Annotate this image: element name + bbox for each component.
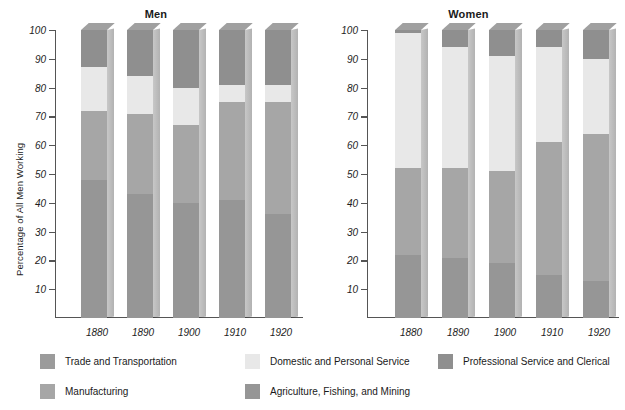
- bar-face: [489, 30, 515, 318]
- plot-area-men: 1020304050607080901001880189019001910192…: [55, 30, 295, 318]
- y-tick-men-70: [49, 116, 55, 117]
- x-tick-label-men-1910: 1910: [224, 327, 246, 338]
- bar-segment-men-1880-0: [81, 180, 107, 318]
- bar-side-shading: [562, 28, 569, 318]
- bar-side-shading: [468, 28, 475, 318]
- legend: Trade and TransportationDomestic and Per…: [0, 352, 625, 410]
- y-tick-label-women-20: 20: [347, 255, 358, 266]
- bar-segment-men-1920-4: [265, 30, 291, 85]
- y-tick-women-10: [361, 289, 367, 290]
- y-tick-label-men-20: 20: [35, 255, 46, 266]
- y-tick-men-50: [49, 174, 55, 175]
- y-tick-label-women-90: 90: [347, 53, 358, 64]
- legend-label-2: Professional Service and Clerical: [463, 356, 610, 367]
- y-tick-men-80: [49, 88, 55, 89]
- legend-item-2[interactable]: Professional Service and Clerical: [438, 354, 610, 369]
- bar-side-shading: [245, 28, 252, 318]
- bar-side-shading: [107, 28, 114, 318]
- bar-segment-men-1900-0: [173, 203, 199, 318]
- y-tick-label-women-30: 30: [347, 226, 358, 237]
- bar-side-shading: [199, 28, 206, 318]
- bar-women-1890[interactable]: [442, 30, 468, 318]
- legend-swatch-icon-0: [40, 354, 55, 369]
- bar-men-1910[interactable]: [219, 30, 245, 318]
- bar-segment-women-1920-0: [583, 281, 609, 318]
- bar-segment-men-1880-4: [81, 30, 107, 67]
- bar-men-1890[interactable]: [127, 30, 153, 318]
- bar-women-1900[interactable]: [489, 30, 515, 318]
- legend-item-1[interactable]: Domestic and Personal Service: [245, 354, 410, 369]
- y-tick-label-men-60: 60: [35, 140, 46, 151]
- bar-segment-men-1880-1: [81, 111, 107, 180]
- y-tick-label-men-40: 40: [35, 197, 46, 208]
- bar-segment-men-1920-0: [265, 214, 291, 318]
- bar-face: [265, 30, 291, 318]
- y-tick-label-men-80: 80: [35, 82, 46, 93]
- y-axis-line-women: [367, 30, 368, 318]
- bar-men-1920[interactable]: [265, 30, 291, 318]
- bar-women-1920[interactable]: [583, 30, 609, 318]
- bar-segment-women-1890-4: [442, 30, 468, 47]
- x-tick-label-men-1880: 1880: [86, 327, 108, 338]
- bar-segment-men-1880-3: [81, 67, 107, 110]
- y-tick-men-10: [49, 289, 55, 290]
- y-tick-label-women-40: 40: [347, 197, 358, 208]
- y-tick-men-20: [49, 260, 55, 261]
- legend-label-3: Manufacturing: [65, 386, 128, 397]
- legend-item-0[interactable]: Trade and Transportation: [40, 354, 177, 369]
- figure-root: Men Percentage of All Men Working 102030…: [0, 0, 625, 410]
- bar-face: [442, 30, 468, 318]
- bar-men-1900[interactable]: [173, 30, 199, 318]
- y-tick-men-100: [49, 30, 55, 31]
- bar-women-1910[interactable]: [536, 30, 562, 318]
- bar-segment-men-1920-1: [265, 102, 291, 214]
- legend-label-4: Agriculture, Fishing, and Mining: [270, 386, 410, 397]
- y-tick-men-40: [49, 203, 55, 204]
- bar-men-1880[interactable]: [81, 30, 107, 318]
- x-tick-label-men-1900: 1900: [178, 327, 200, 338]
- bar-face: [395, 30, 421, 318]
- y-tick-women-40: [361, 203, 367, 204]
- y-tick-label-men-70: 70: [35, 111, 46, 122]
- bar-segment-women-1890-1: [442, 168, 468, 257]
- bar-segment-women-1900-0: [489, 263, 515, 318]
- y-tick-label-women-80: 80: [347, 82, 358, 93]
- legend-item-3[interactable]: Manufacturing: [40, 384, 128, 399]
- bar-side-shading: [421, 28, 428, 318]
- y-tick-women-20: [361, 260, 367, 261]
- bar-segment-men-1910-3: [219, 85, 245, 102]
- x-tick-label-women-1920: 1920: [588, 327, 610, 338]
- bar-segment-men-1890-4: [127, 30, 153, 76]
- y-tick-label-men-100: 100: [29, 25, 46, 36]
- legend-label-0: Trade and Transportation: [65, 356, 177, 367]
- y-tick-label-women-60: 60: [347, 140, 358, 151]
- y-tick-label-women-10: 10: [347, 284, 358, 295]
- bar-segment-women-1910-4: [536, 30, 562, 47]
- y-tick-women-90: [361, 59, 367, 60]
- legend-item-4[interactable]: Agriculture, Fishing, and Mining: [245, 384, 410, 399]
- y-tick-men-90: [49, 59, 55, 60]
- bar-segment-women-1900-3: [489, 56, 515, 171]
- bar-side-shading: [153, 28, 160, 318]
- x-tick-label-women-1900: 1900: [494, 327, 516, 338]
- bar-face: [219, 30, 245, 318]
- x-tick-label-men-1920: 1920: [270, 327, 292, 338]
- x-tick-label-men-1890: 1890: [132, 327, 154, 338]
- bar-segment-women-1920-3: [583, 59, 609, 134]
- y-tick-men-60: [49, 145, 55, 146]
- legend-label-1: Domestic and Personal Service: [270, 356, 410, 367]
- chart-panel-women: Women Percentage of All Women Working 10…: [312, 0, 625, 350]
- bar-women-1880[interactable]: [395, 30, 421, 318]
- y-tick-women-80: [361, 88, 367, 89]
- bar-segment-women-1880-1: [395, 168, 421, 254]
- chart-panel-men: Men Percentage of All Men Working 102030…: [0, 0, 312, 350]
- y-tick-women-50: [361, 174, 367, 175]
- y-tick-label-men-30: 30: [35, 226, 46, 237]
- legend-swatch-icon-4: [245, 384, 260, 399]
- y-tick-label-women-70: 70: [347, 111, 358, 122]
- bar-segment-women-1880-3: [395, 33, 421, 168]
- bar-segment-women-1920-4: [583, 30, 609, 59]
- bar-side-shading: [515, 28, 522, 318]
- y-axis-label-men: Percentage of All Men Working: [14, 143, 25, 276]
- y-tick-label-men-90: 90: [35, 53, 46, 64]
